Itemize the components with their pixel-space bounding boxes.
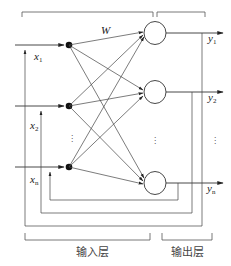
weight-label: W xyxy=(101,24,111,36)
input-label-n: xn xyxy=(29,173,39,187)
neuron-n xyxy=(144,172,166,195)
top-bracket-left xyxy=(22,12,153,17)
output-label-n: yn xyxy=(206,182,216,196)
neuron-2 xyxy=(144,81,166,104)
neuron-1 xyxy=(144,22,166,45)
ellipsis-neurons: ⋮ xyxy=(151,136,159,145)
output-label-1: y1 xyxy=(207,32,217,46)
ellipsis-outputs: ⋮ xyxy=(211,136,219,145)
feedback-loop-2 xyxy=(41,92,192,213)
input-label-2: x2 xyxy=(29,119,39,133)
weight-connections xyxy=(69,32,144,184)
input-label-1: x1 xyxy=(33,50,43,64)
bottom-bracket-input xyxy=(25,233,150,240)
output-label-2: y2 xyxy=(207,91,217,105)
top-bracket-right xyxy=(157,12,205,17)
neural-network-diagram: W x1 x2 xn y1 y2 yn ⋮ ⋮ ⋮ 输入层 输出层 xyxy=(0,0,231,266)
bottom-bracket-output xyxy=(162,233,212,240)
input-layer-label: 输入层 xyxy=(76,245,109,259)
feedback-loop-1 xyxy=(25,33,202,226)
output-layer-label: 输出层 xyxy=(171,245,204,259)
ellipsis-inputs: ⋮ xyxy=(68,134,76,143)
